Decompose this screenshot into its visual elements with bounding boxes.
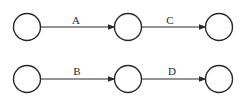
node-2 <box>115 14 142 41</box>
edge-label-d: D <box>168 65 176 77</box>
node-5 <box>115 66 142 93</box>
node-4 <box>14 66 41 93</box>
diagram-canvas: A C B D <box>0 0 243 97</box>
node-6 <box>206 66 233 93</box>
activity-diagram: A C B D <box>0 0 243 97</box>
node-1 <box>14 14 41 41</box>
edge-label-b: B <box>73 65 80 77</box>
edge-label-c: C <box>166 14 173 26</box>
node-3 <box>206 14 233 41</box>
edge-label-a: A <box>72 14 80 26</box>
